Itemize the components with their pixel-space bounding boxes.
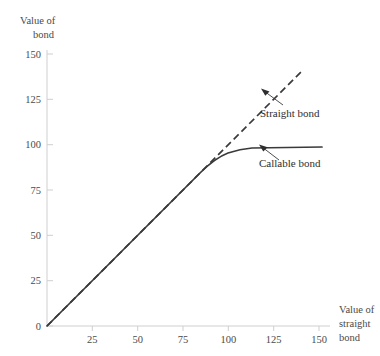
x-axis-title: Value of straight bond	[339, 304, 375, 343]
y-tick-label-75: 75	[31, 185, 42, 196]
x-tick-label-100: 100	[220, 334, 236, 345]
y-axis-title: Value of bond	[20, 15, 56, 40]
chart-svg: 0 25 50 75 100 125 150 25 50 75 100 125 …	[0, 0, 380, 356]
y-tick-label-150: 150	[25, 49, 41, 60]
callable-bond-curve	[47, 147, 322, 326]
x-tick-label-25: 25	[87, 334, 98, 345]
x-tick-label-125: 125	[266, 334, 282, 345]
y-tick-label-125: 125	[25, 94, 41, 105]
y-tick-label-0: 0	[36, 321, 41, 332]
y-axis: 0 25 50 75 100 125 150	[25, 49, 53, 332]
x-axis-title-line2: straight	[339, 318, 371, 329]
x-axis-ticks	[92, 326, 319, 331]
y-axis-title-line1: Value of	[20, 15, 56, 26]
callable-bond-label: Callable bond	[259, 157, 321, 169]
bond-value-chart: 0 25 50 75 100 125 150 25 50 75 100 125 …	[0, 0, 380, 356]
y-axis-ticks	[47, 54, 53, 326]
x-tick-label-75: 75	[178, 334, 189, 345]
x-tick-label-150: 150	[311, 334, 327, 345]
x-tick-label-50: 50	[132, 334, 143, 345]
y-tick-label-25: 25	[31, 275, 42, 286]
x-axis: 25 50 75 100 125 150	[47, 326, 330, 345]
y-tick-label-100: 100	[25, 139, 41, 150]
straight-bond-label: Straight bond	[260, 107, 320, 119]
series-callable-bond	[47, 147, 322, 326]
y-tick-label-50: 50	[31, 230, 42, 241]
x-axis-title-line1: Value of	[339, 304, 375, 315]
y-axis-title-line2: bond	[33, 29, 55, 40]
x-axis-title-line3: bond	[339, 332, 361, 343]
